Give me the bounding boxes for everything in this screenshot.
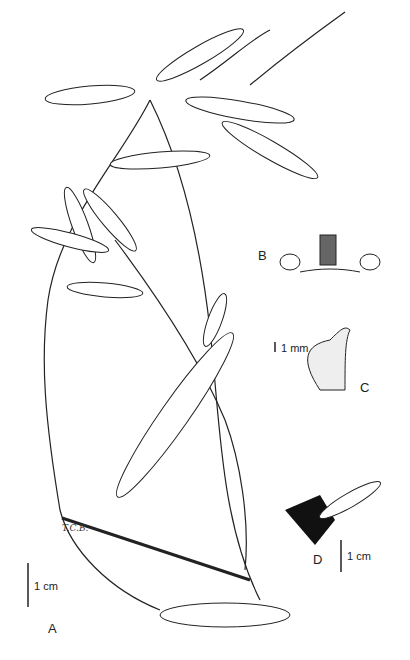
panel-label-b: B [258, 248, 267, 263]
stem-center [150, 100, 260, 600]
stem-left [44, 100, 160, 610]
panel-label-a: A [48, 621, 57, 636]
artist-initials: T.C.B. [62, 523, 88, 533]
rhizome [62, 518, 250, 580]
scale-d-text: 1 cm [347, 550, 371, 562]
inflorescence-stalk-2 [250, 12, 345, 85]
scale-a-text: 1 cm [34, 580, 58, 592]
panel-label-d: D [313, 552, 322, 567]
scale-b-text: 1 mm [281, 342, 309, 354]
panel-label-c: C [360, 380, 369, 395]
